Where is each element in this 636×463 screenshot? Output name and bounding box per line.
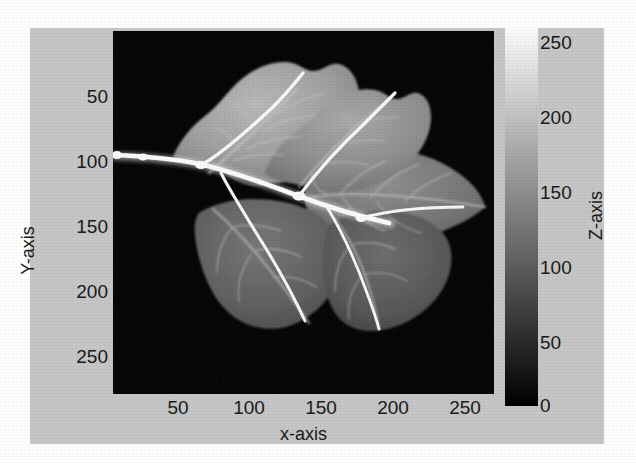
colorbar-label: Z-axis xyxy=(586,166,607,266)
x-tick-4: 250 xyxy=(449,398,481,417)
y-tick-0: 50 xyxy=(87,87,108,106)
colorbar-tick-0: 250 xyxy=(540,33,572,52)
y-tick-4: 250 xyxy=(76,347,108,366)
x-tick-3: 200 xyxy=(377,398,409,417)
image-axes xyxy=(113,31,494,394)
y-tick-1: 100 xyxy=(76,152,108,171)
colorbar-tick-1: 200 xyxy=(540,108,572,127)
image-grain xyxy=(113,31,494,394)
y-tick-2: 150 xyxy=(76,217,108,236)
colorbar-tick-5: 0 xyxy=(540,396,551,415)
x-tick-2: 150 xyxy=(305,398,337,417)
colorbar-tick-labels: 250 200 150 100 50 0 xyxy=(540,24,588,406)
colorbar-tick-4: 50 xyxy=(540,333,561,352)
figure-root: 50 100 150 200 250 50 100 150 200 250 x-… xyxy=(0,0,636,463)
x-axis-label: x-axis xyxy=(113,424,494,445)
x-tick-labels: 50 100 150 200 250 xyxy=(113,398,494,424)
colorbar xyxy=(505,24,538,406)
y-tick-3: 200 xyxy=(76,282,108,301)
y-axis-label: Y-axis xyxy=(18,201,39,301)
x-tick-1: 100 xyxy=(233,398,265,417)
x-tick-0: 50 xyxy=(167,398,188,417)
colorbar-tick-2: 150 xyxy=(540,183,572,202)
colorbar-tick-3: 100 xyxy=(540,258,572,277)
leaf-image xyxy=(113,31,494,394)
y-tick-labels: 50 100 150 200 250 xyxy=(48,31,108,394)
